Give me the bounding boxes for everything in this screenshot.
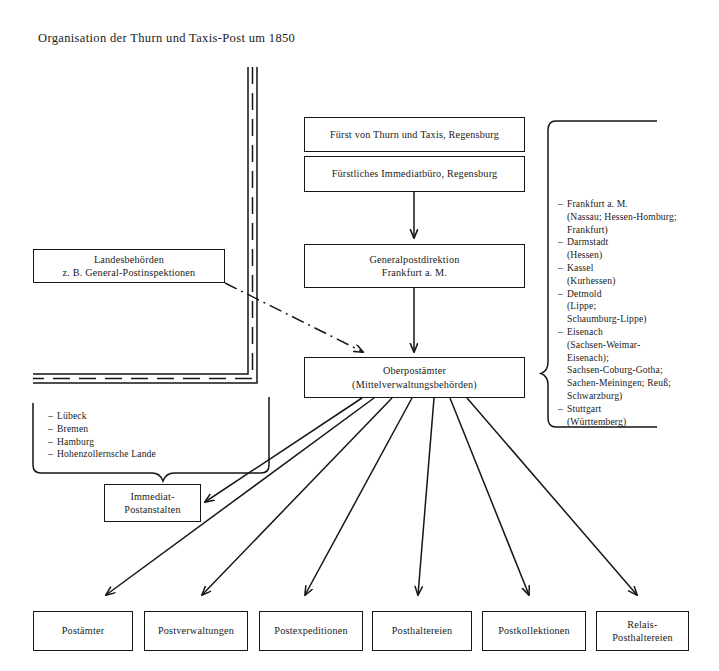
bullet-dash-icon: – — [48, 436, 57, 449]
node-postexpeditionen[interactable]: Postexpeditionen — [259, 611, 363, 651]
node-label: Postämter — [62, 624, 105, 637]
region-entry: –Frankfurt a. M.(Nassau; Hessen-Homburg;… — [558, 198, 716, 236]
region-entry: –Lübeck — [48, 410, 228, 423]
arrow-oberpostaemter-to-immediat-postanstalten — [205, 398, 362, 502]
node-immediat-postanstalten[interactable]: Immediat- Postanstalten — [104, 484, 201, 522]
region-name: –Hohenzollernsche Lande — [48, 448, 156, 459]
node-label: Immediat- Postanstalten — [124, 490, 180, 517]
oberpostaemter-region-list: –Frankfurt a. M.(Nassau; Hessen-Homburg;… — [558, 198, 716, 428]
arrow-oberpostaemter-to-postexpeditionen — [305, 398, 412, 595]
node-label: Fürstliches Immediatbüro, Regensburg — [332, 167, 498, 180]
node-label: Postkollektionen — [498, 624, 570, 637]
organization-chart: Organisation der Thurn und Taxis-Post um… — [0, 0, 719, 671]
node-label: Fürst von Thurn und Taxis, Regensburg — [330, 128, 499, 141]
bullet-dash-icon: – — [48, 423, 57, 436]
region-detail: (Hessen) — [558, 249, 716, 262]
region-name: –Bremen — [48, 423, 88, 434]
node-label: Relais- Posthaltereien — [612, 618, 673, 645]
node-postkollektionen[interactable]: Postkollektionen — [482, 611, 586, 651]
node-label: Landesbehörden z. B. General-Postinspekt… — [63, 253, 196, 280]
region-detail: (Württemberg) — [558, 416, 716, 429]
region-entry: –Eisenach(Sachsen-Weimar- Eisenach); Sac… — [558, 326, 716, 403]
node-label: Postexpeditionen — [274, 624, 347, 637]
region-entry: –Darmstadt(Hessen) — [558, 236, 716, 262]
region-entry: –Bremen — [48, 423, 228, 436]
region-name: –Kassel — [558, 262, 593, 273]
bullet-dash-icon: – — [558, 288, 567, 301]
region-entry: –Hohenzollernsche Lande — [48, 448, 228, 461]
region-name: –Stuttgart — [558, 403, 601, 414]
node-oberpostaemter[interactable]: Oberpostämter (Mittelverwaltungsbehörden… — [304, 357, 525, 398]
node-postverwaltungen[interactable]: Postverwaltungen — [144, 611, 248, 651]
node-label: Oberpostämter (Mittelverwaltungsbehörden… — [352, 364, 477, 391]
bullet-dash-icon: – — [48, 448, 57, 461]
region-name: –Detmold — [558, 288, 602, 299]
node-postaemter[interactable]: Postämter — [33, 611, 133, 651]
node-posthaltereien[interactable]: Posthaltereien — [372, 611, 472, 651]
region-entry: –Detmold(Lippe; Schaumburg-Lippe) — [558, 288, 716, 326]
node-fuerst-von-thurn-und-taxis[interactable]: Fürst von Thurn und Taxis, Regensburg — [304, 117, 525, 152]
node-fuerstliches-immediatbuero[interactable]: Fürstliches Immediatbüro, Regensburg — [304, 156, 525, 192]
region-name: –Hamburg — [48, 436, 94, 447]
left-rail-inner — [33, 67, 257, 383]
node-generalpostdirektion[interactable]: Generalpostdirektion Frankfurt a. M. — [304, 244, 525, 288]
region-detail: (Sachsen-Weimar- Eisenach); Sachsen-Cobu… — [558, 339, 716, 403]
node-label: Posthaltereien — [392, 624, 453, 637]
arrow-oberpostaemter-to-postverwaltungen — [202, 398, 392, 595]
region-name: –Lübeck — [48, 410, 87, 421]
region-detail: (Nassau; Hessen-Homburg; Frankfurt) — [558, 211, 716, 237]
node-landesbehoerden[interactable]: Landesbehörden z. B. General-Postinspekt… — [33, 249, 225, 283]
left-rail-dashed — [33, 67, 253, 379]
bullet-dash-icon: – — [558, 326, 567, 339]
region-entry: –Kassel(Kurhessen) — [558, 262, 716, 288]
arrow-oberpostaemter-to-postkollektionen — [450, 398, 529, 595]
region-entry: –Stuttgart(Württemberg) — [558, 403, 716, 429]
node-relais-posthaltereien[interactable]: Relais- Posthaltereien — [596, 611, 689, 651]
region-name: –Darmstadt — [558, 236, 608, 247]
region-entry: –Hamburg — [48, 436, 228, 449]
node-label: Generalpostdirektion Frankfurt a. M. — [369, 253, 459, 280]
bullet-dash-icon: – — [558, 403, 567, 416]
region-detail: (Kurhessen) — [558, 275, 716, 288]
bullet-dash-icon: – — [48, 410, 57, 423]
arrow-landesbehoerden-to-oberpostaemter — [225, 283, 363, 352]
bullet-dash-icon: – — [558, 198, 567, 211]
arrow-oberpostaemter-to-posthaltereien — [418, 398, 434, 595]
bullet-dash-icon: – — [558, 262, 567, 275]
region-name: –Frankfurt a. M. — [558, 198, 628, 209]
region-detail: (Lippe; Schaumburg-Lippe) — [558, 300, 716, 326]
left-rail-outer — [33, 67, 248, 374]
node-label: Postverwaltungen — [158, 624, 234, 637]
bullet-dash-icon: – — [558, 236, 567, 249]
immediat-region-list: –Lübeck–Bremen–Hamburg–Hohenzollernsche … — [48, 410, 228, 461]
region-name: –Eisenach — [558, 326, 603, 337]
